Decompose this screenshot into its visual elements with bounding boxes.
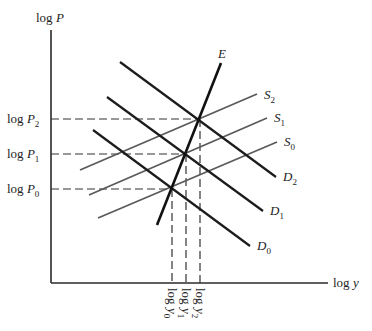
y-axis-label: log P: [36, 10, 64, 25]
price-label-p2: log P2: [7, 111, 39, 129]
supply-label-s2: S2: [264, 87, 275, 105]
demand-label-d1: D1: [269, 203, 284, 221]
demand-label-d0: D0: [256, 238, 271, 256]
supply-label-s0: S0: [284, 134, 296, 152]
demand-label-d2: D2: [282, 169, 297, 187]
supply-curve-s2: [80, 94, 257, 170]
expansion-label: E: [217, 46, 226, 61]
price-label-p0: log P0: [7, 181, 40, 199]
supply-label-s1: S1: [274, 110, 285, 128]
supply-demand-diagram: log P log y log P2 log P1 log P0 log y0 …: [0, 0, 372, 331]
price-label-p1: log P1: [7, 146, 39, 164]
x-axis-label: log y: [333, 275, 359, 290]
